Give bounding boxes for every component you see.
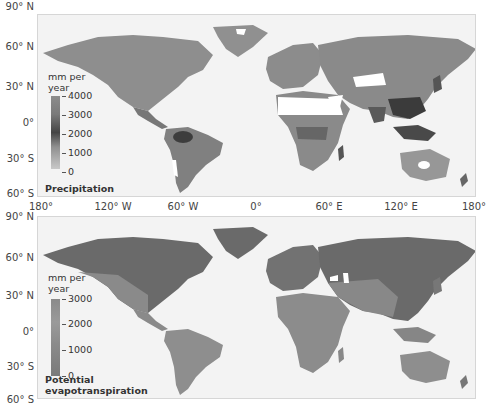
legend-colorbar [51,299,60,376]
precipitation-legend: mm per year 4000 3000 2000 1000 0 [48,71,85,93]
lat-label: 30° N [0,290,34,301]
lat-label: 30° N [0,81,34,92]
legend-unit-line1: mm per [48,71,85,82]
lat-label: 90° N [0,1,34,12]
evapotranspiration-map: mm per year 3000 2000 1000 0 Potential e… [37,216,476,399]
lat-label: 60° N [0,41,34,52]
panel-title-evapotranspiration: evapotranspiration [45,385,148,396]
lat-label: 90° N [0,211,34,222]
lat-label: 60° S [0,394,34,405]
lon-label: 60° E [315,201,342,212]
panel-title-potential: Potential [45,374,94,385]
lon-label: 60° W [168,201,199,212]
lon-label: 120° W [94,201,131,212]
evapotranspiration-land-shapes [38,217,476,399]
legend-tick: 2000 [62,319,92,329]
legend-tick: 3000 [62,110,92,120]
lat-label: 0° [0,326,34,337]
legend-tick: 3000 [62,294,92,304]
legend-tick: 2000 [62,129,92,139]
legend-tick: 0 [62,167,74,177]
lat-label: 30° S [0,153,34,164]
evapotranspiration-legend: mm per year 3000 2000 1000 0 [48,272,85,294]
legend-colorbar [51,96,60,169]
legend-unit-line1: mm per [48,272,85,283]
legend-tick: 1000 [62,345,92,355]
lat-label: 60° S [0,188,34,199]
legend-tick: 1000 [62,148,92,158]
lat-label: 60° N [0,252,34,263]
precipitation-land-shapes [38,15,476,197]
panel-title-precipitation: Precipitation [45,183,114,194]
legend-tick: 4000 [62,91,92,101]
lon-label: 120° E [384,201,418,212]
lat-label: 0° [0,117,34,128]
lat-label: 30° S [0,361,34,372]
lon-label: 0° [250,201,261,212]
precipitation-map: mm per year 4000 3000 2000 1000 0 Precip… [37,14,476,197]
lon-label: 180° [462,201,486,212]
